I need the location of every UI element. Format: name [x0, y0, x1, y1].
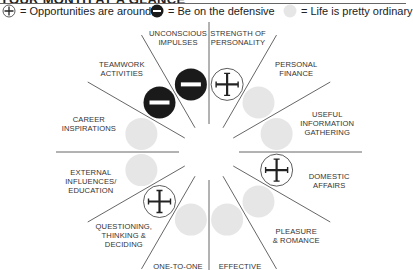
sector-label: TEAMWORKACTIVITIES	[99, 60, 145, 78]
sector-marker-ordinary	[175, 204, 207, 236]
sector-marker-opportunity	[211, 68, 243, 100]
sector-marker-ordinary	[261, 118, 293, 150]
minus-icon	[150, 101, 170, 105]
sector-marker-opportunity	[261, 154, 293, 186]
sector-label: EXTERNALINFLUENCES/EDUCATION	[65, 168, 117, 195]
minus-icon	[181, 82, 201, 86]
sector-marker-ordinary	[125, 154, 157, 186]
sector-label: QUESTIONING,THINKING &DECIDING	[96, 222, 152, 249]
sector-labels: STRENGTH OFPERSONALITYPERSONALFINANCEUSE…	[62, 29, 354, 270]
sector-marker-opportunity	[144, 185, 176, 217]
sector-marker-ordinary	[242, 87, 274, 119]
sector-label: PERSONALFINANCE	[275, 60, 317, 78]
sector-marker-ordinary	[211, 204, 243, 236]
sector-label: UNCONSCIOUSIMPULSES	[149, 29, 207, 47]
sector-label: STRENGTH OFPERSONALITY	[210, 29, 266, 47]
sector-label: EFFECTIVEWORK & HEALTH	[208, 262, 272, 270]
sector-label: ONE-TO-ONERELATIONSHIPS	[147, 262, 209, 270]
sector-marker-ordinary	[242, 185, 274, 217]
sector-marker-ordinary	[125, 118, 157, 150]
sector-marker-defensive	[144, 87, 176, 119]
sector-label: USEFULINFORMATIONGATHERING	[300, 110, 354, 137]
sector-marker-defensive	[175, 68, 207, 100]
sector-label: DOMESTICAFFAIRS	[309, 172, 350, 190]
sector-label: CAREERINSPIRATIONS	[62, 115, 116, 133]
sector-label: PLEASURE& ROMANCE	[273, 227, 320, 245]
